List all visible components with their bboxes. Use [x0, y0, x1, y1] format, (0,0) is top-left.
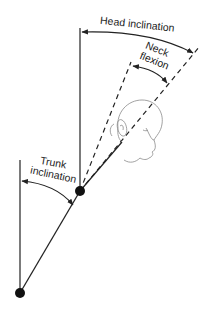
trunk-inclination-arc	[22, 181, 73, 205]
head-inclination-arc	[82, 32, 193, 53]
head-outline-icon	[110, 100, 162, 162]
hip-joint-marker	[75, 186, 85, 196]
trunk-line	[20, 191, 80, 293]
head-inclination-label: Head inclination	[100, 14, 176, 34]
posture-angle-diagram: Head inclination Neck flexion Trunk incl…	[0, 0, 214, 318]
base-joint-marker	[15, 288, 25, 298]
